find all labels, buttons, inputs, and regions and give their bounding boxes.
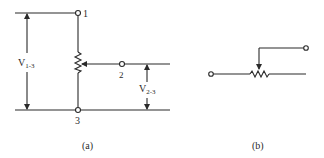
panel-b (209, 46, 309, 77)
v23-label: V2-3 (139, 83, 156, 96)
caption-a: (a) (82, 140, 93, 152)
terminal-3-icon (76, 108, 81, 113)
terminal-3-label: 3 (75, 115, 80, 126)
panel-a-labels: 1 2 3 V1-3 V2-3 (a) (18, 8, 156, 152)
terminal-2-icon (120, 62, 125, 67)
potentiometer-diagram: 1 2 3 V1-3 V2-3 (a) (b) (0, 0, 324, 158)
panel-a (15, 11, 170, 113)
terminal-2-label: 2 (119, 70, 124, 80)
resistor-zigzag-icon (75, 52, 81, 73)
wiper-terminal-icon (304, 46, 309, 51)
terminal-1-label: 1 (83, 8, 88, 19)
left-terminal-icon (209, 72, 214, 77)
v13-label: V1-3 (18, 57, 35, 70)
terminal-1-icon (76, 11, 81, 16)
caption-b: (b) (252, 140, 264, 152)
resistor-zigzag-icon (250, 71, 269, 77)
